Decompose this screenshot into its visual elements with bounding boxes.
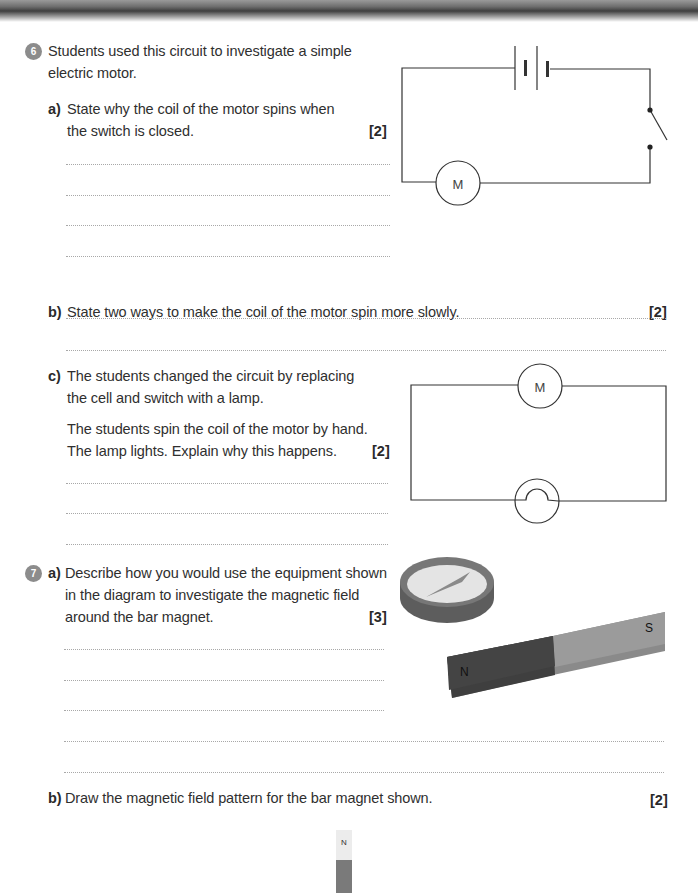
q7a-answer-line[interactable]	[64, 649, 384, 650]
q7a-answer-line[interactable]	[64, 710, 384, 711]
motor-label: M	[453, 177, 464, 192]
q6-intro-line1: Students used this circuit to investigat…	[48, 41, 352, 61]
q6a-answer-line[interactable]	[66, 256, 390, 257]
q6c-label: c)	[48, 366, 61, 386]
q6b-answer-line[interactable]	[66, 318, 666, 319]
page-edge-shadow	[0, 0, 698, 22]
q6a-answer-line[interactable]	[66, 225, 390, 226]
vertical-magnet-north-label: N	[341, 838, 347, 847]
q6c-answer-line[interactable]	[66, 544, 388, 545]
q6c-answer-line[interactable]	[66, 483, 388, 484]
q7a-text-line3: around the bar magnet.	[65, 607, 214, 627]
q7a-answer-line[interactable]	[64, 741, 664, 742]
q6b-label: b)	[48, 302, 62, 322]
q6c-answer-line[interactable]	[66, 513, 388, 514]
q7a-marks: [3]	[369, 607, 387, 627]
q7b-text: Draw the magnetic field pattern for the …	[65, 788, 432, 808]
q6c-marks: [2]	[372, 441, 390, 461]
q7a-answer-line[interactable]	[64, 680, 384, 681]
circuit-diagram-motor-lamp: M	[390, 340, 698, 540]
magnet-north-label: N	[460, 665, 469, 679]
q7a-answer-line[interactable]	[64, 772, 664, 773]
q7a-label: a)	[48, 563, 61, 583]
motor-label: M	[535, 380, 546, 395]
q7b-marks: [2]	[650, 790, 668, 810]
question-number-6: 6	[25, 43, 42, 60]
question-number-7: 7	[25, 565, 42, 582]
q6a-label: a)	[48, 99, 61, 119]
q6a-text-line1: State why the coil of the motor spins wh…	[67, 99, 334, 119]
q6b-text: State two ways to make the coil of the m…	[67, 302, 459, 322]
q7a-text-line1: Describe how you would use the equipment…	[65, 563, 387, 583]
circuit-diagram-motor-switch-cell: M	[380, 30, 698, 210]
q6a-text-line2: the switch is closed.	[67, 121, 194, 141]
q6a-answer-line[interactable]	[66, 164, 390, 165]
q6c-text-line2: the cell and switch with a lamp.	[67, 388, 264, 408]
compass-and-bar-magnet-diagram: N S	[390, 540, 698, 740]
q7b-label: b)	[48, 788, 62, 808]
bar-magnet-icon: N S	[447, 612, 665, 698]
vertical-bar-magnet: N	[335, 830, 355, 893]
compass-icon	[400, 557, 494, 623]
q6b-marks: [2]	[649, 302, 667, 322]
q6-intro-line2: electric motor.	[48, 63, 137, 83]
q7a-text-line2: in the diagram to investigate the magnet…	[65, 585, 359, 605]
magnet-south-label: S	[645, 621, 653, 635]
q6c-text-line1: The students changed the circuit by repl…	[67, 366, 354, 386]
q6c-text2-line2: The lamp lights. Explain why this happen…	[67, 441, 337, 461]
q6a-answer-line[interactable]	[66, 195, 390, 196]
q6c-text2-line1: The students spin the coil of the motor …	[67, 419, 368, 439]
